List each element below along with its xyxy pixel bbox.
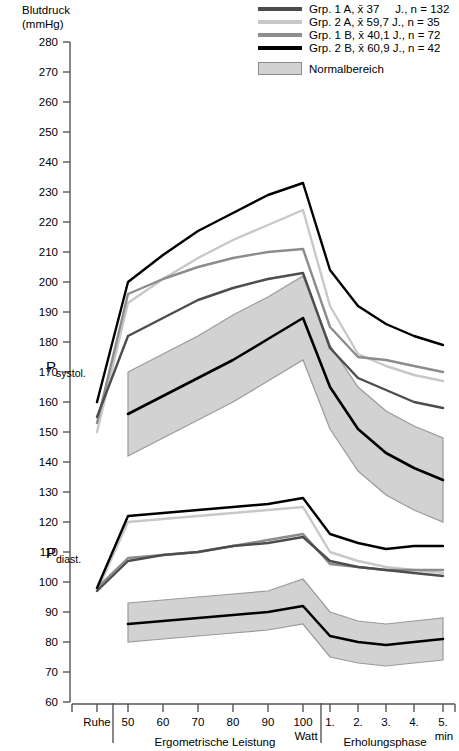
x-axis-tick-label: 90: [262, 716, 275, 728]
y-axis-tick-label: 270: [39, 66, 58, 78]
y-axis-tick-label: 120: [39, 516, 58, 528]
p-diastolic-label-main: P: [46, 544, 56, 561]
x-axis: Ruhe50607080901001.2.3.4.5.WattminErgome…: [72, 703, 455, 748]
x-axis-section-ergometrie: Ergometrische Leistung: [155, 736, 276, 748]
x-axis-tick-label: 3.: [381, 716, 391, 728]
x-axis-tick-label: 2.: [353, 716, 363, 728]
x-axis-tick-label: 80: [227, 716, 240, 728]
y-axis-tick-label: 100: [39, 576, 58, 588]
y-axis-tick-label: 210: [39, 246, 58, 258]
y-axis-tick-label: 280: [39, 36, 58, 48]
y-axis-tick-label: 90: [45, 606, 58, 618]
y-axis-tick-label: 250: [39, 126, 58, 138]
p-diastolic-label-sub: diast.: [56, 553, 81, 565]
p-systolic-label-sub: systol.: [56, 367, 86, 379]
x-axis-tick-label: 70: [192, 716, 205, 728]
y-axis-tick-label: 70: [45, 666, 58, 678]
y-axis-tick-label: 150: [39, 426, 58, 438]
x-axis-tick-label: 60: [157, 716, 170, 728]
y-axis-tick-label: 180: [39, 336, 58, 348]
y-axis-tick-label: 230: [39, 186, 58, 198]
normal-range-bands: [128, 276, 443, 666]
x-axis-tick-label: 50: [122, 716, 135, 728]
x-axis-tick-label: 100: [293, 716, 312, 728]
normal-range-band: [128, 579, 443, 666]
p-systolic-label-main: P: [46, 358, 56, 375]
y-axis-tick-label: 130: [39, 486, 58, 498]
x-axis-unit-min: min: [435, 730, 454, 742]
y-axis-tick-label: 190: [39, 306, 58, 318]
y-axis-tick-label: 140: [39, 456, 58, 468]
x-axis-tick-label: 5.: [438, 716, 448, 728]
x-axis-section-erholung: Erholungsphase: [343, 736, 426, 748]
y-axis-tick-label: 60: [45, 696, 58, 708]
y-axis-tick-label: 160: [39, 396, 58, 408]
y-axis-tick-label: 80: [45, 636, 58, 648]
blood-pressure-chart: 2802702602502402302202102001901801701601…: [0, 0, 459, 751]
x-axis-tick-label: 1.: [325, 716, 335, 728]
y-axis-tick-label: 220: [39, 216, 58, 228]
x-axis-unit-watt: Watt: [294, 730, 318, 742]
chart-page: Blutdruck (mmHg) Grp. 1 A, x̄ 37 J., n =…: [0, 0, 459, 751]
x-axis-tick-label: 4.: [409, 716, 419, 728]
x-axis-tick-label: Ruhe: [83, 716, 111, 728]
y-axis-tick-label: 240: [39, 156, 58, 168]
y-axis-tick-label: 260: [39, 96, 58, 108]
series-line: [97, 537, 443, 591]
y-axis-tick-label: 200: [39, 276, 58, 288]
